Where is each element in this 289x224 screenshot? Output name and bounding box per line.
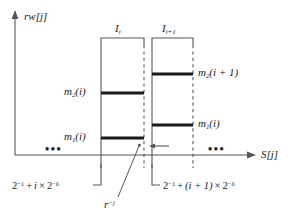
interval-ip1-boundaries [152,45,193,168]
level-label-m2-ip1-base: m [198,66,206,78]
ellipsis-left: ••• [45,142,62,157]
level-label-m2-i-base: m [64,85,72,97]
level-label-m2-ip1: m2(i + 1) [198,67,238,80]
step-size-label-exp: −j [108,199,115,206]
step-size-label: r−j [104,199,115,210]
interval-label-ip1: Ii+1 [162,23,176,36]
y-axis-label-index: [j] [36,10,48,22]
bound-formula-right: 2−1+(i + 1)×2−δ [163,181,235,192]
interval-label-ip1-sub: i+1 [166,28,176,35]
level-label-m2-i-arg: (i) [75,85,85,97]
level-label-m1-i-arg: (i) [75,130,85,142]
level-label-m1-i-base: m [64,130,72,142]
interval-ip1-top-bracket [152,38,193,45]
bound-right-i: (i + 1) [185,180,213,191]
level-label-m2-i: m2(i) [64,86,86,99]
y-axis-label: rw[j] [24,11,47,22]
x-axis-label-index: [j] [267,148,279,160]
step-leader-line [118,144,141,197]
interval-i-top-bracket [101,38,144,45]
bound-right-exp2: −δ [228,180,235,187]
interval-label-i-sub: i [119,28,121,35]
bound-left-times: × [37,180,47,191]
bound-right-plus: + [175,180,185,191]
level-label-m1-ip1: m1(i) [198,118,220,131]
x-axis-label: S[j] [261,149,278,160]
level-label-m1-ip1-base: m [198,117,206,129]
bound-bracket-left [93,172,101,185]
ellipsis-right: ••• [208,142,225,157]
bound-left-plus: + [24,180,34,191]
interval-label-i: Ii [115,23,121,36]
y-axis-label-name: rw [24,10,36,22]
level-label-m1-i: m1(i) [64,131,86,144]
step-bars [101,74,193,138]
y-axis-group [12,10,19,155]
bound-right-times: × [213,180,223,191]
bound-bracket-right [152,172,160,185]
figure-canvas: rw[j] S[j] Ii Ii+1 m2(i) m1(i) m2(i + 1)… [0,0,289,224]
level-label-m2-ip1-arg: (i + 1) [209,66,238,78]
bound-formula-left: 2−1+i×2−δ [12,181,59,192]
bound-left-exp2: −δ [52,180,59,187]
level-label-m1-ip1-arg: (i) [209,117,219,129]
